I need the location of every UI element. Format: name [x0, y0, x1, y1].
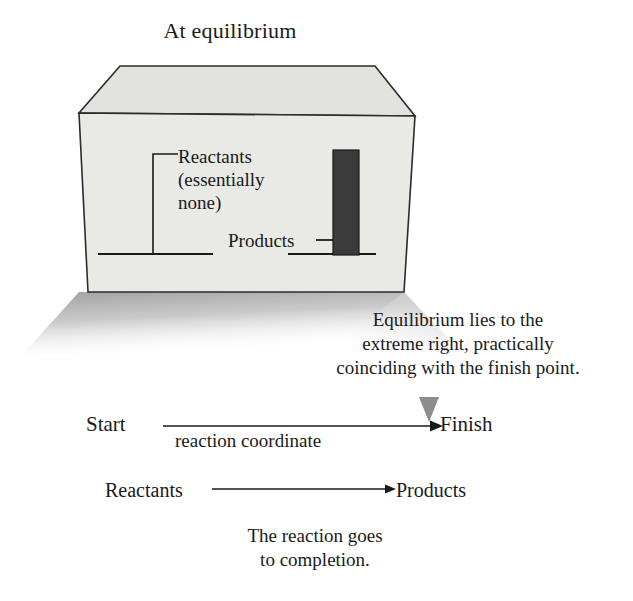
reactants-label: Reactants (essentially none)	[178, 145, 265, 214]
equation-arrow	[212, 485, 396, 494]
reactants-leader-line	[153, 154, 178, 253]
equilibrium-caption-line-2: extreme right, practically	[283, 332, 633, 356]
equilibrium-caption-line-3: coinciding with the finish point.	[283, 356, 633, 380]
equation-reactants-label: Reactants	[105, 479, 183, 502]
axis-finish-label: Finish	[440, 412, 493, 437]
vessel-top-face	[79, 66, 415, 116]
equilibrium-position-marker	[419, 397, 439, 422]
products-label: Products	[228, 230, 295, 252]
equation-products-label: Products	[396, 479, 466, 502]
axis-start-label: Start	[86, 412, 126, 437]
bottom-caption-line-1: The reaction goes	[140, 524, 490, 548]
reactants-label-line-1: Reactants	[178, 145, 265, 168]
products-bar	[333, 150, 359, 255]
reactants-label-line-3: none)	[178, 191, 265, 214]
equilibrium-caption: Equilibrium lies to the extreme right, p…	[283, 308, 633, 380]
bottom-caption-line-2: to completion.	[140, 548, 490, 572]
reactants-label-line-2: (essentially	[178, 168, 265, 191]
reaction-coordinate-label: reaction coordinate	[175, 430, 321, 452]
page-title: At equilibrium	[0, 18, 460, 44]
equilibrium-diagram: At equilibrium	[0, 0, 633, 601]
equilibrium-caption-line-1: Equilibrium lies to the	[283, 308, 633, 332]
bottom-caption: The reaction goes to completion.	[140, 524, 490, 572]
reaction-vessel-graphic	[0, 0, 633, 601]
